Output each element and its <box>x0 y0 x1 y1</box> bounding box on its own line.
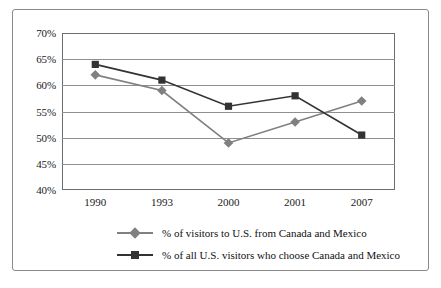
data-point-marker <box>358 131 365 138</box>
legend-marker <box>131 251 139 259</box>
series-layer <box>62 33 395 190</box>
y-axis-tick-label: 70% <box>36 27 56 39</box>
legend-diamond-marker-icon <box>117 226 153 240</box>
legend-marker <box>129 227 140 238</box>
x-axis-tick-label: 2001 <box>284 196 306 208</box>
chart-legend: % of visitors to U.S. from Canada and Me… <box>13 222 428 266</box>
y-axis-tick-label: 40% <box>36 184 56 196</box>
x-axis-tick-label: 2007 <box>351 196 373 208</box>
legend-item[interactable]: % of visitors to U.S. from Canada and Me… <box>13 222 428 244</box>
data-point-marker <box>158 77 165 84</box>
data-point-marker <box>90 70 100 80</box>
data-point-marker <box>292 92 299 99</box>
plot-area <box>62 33 395 190</box>
series-line <box>95 64 361 135</box>
x-axis-tick-label: 2000 <box>218 196 240 208</box>
legend-item-label: % of visitors to U.S. from Canada and Me… <box>162 227 367 239</box>
legend-item-label: % of all U.S. visitors who choose Canada… <box>162 249 400 261</box>
x-axis-tick-labels: 19901993200020012007 <box>62 196 395 212</box>
y-axis-tick-label: 45% <box>36 158 56 170</box>
y-axis-tick-label: 65% <box>36 53 56 65</box>
chart-figure: 40%45%50%55%60%65%70% 199019932000200120… <box>12 9 429 271</box>
data-point-marker <box>357 96 367 106</box>
x-axis-tick-label: 1993 <box>151 196 173 208</box>
y-axis-tick-label: 60% <box>36 79 56 91</box>
y-axis-tick-label: 55% <box>36 106 56 118</box>
data-point-marker <box>92 61 99 68</box>
y-axis-tick-label: 50% <box>36 132 56 144</box>
data-point-marker <box>290 117 300 127</box>
data-point-marker <box>225 103 232 110</box>
y-axis-tick-labels: 40%45%50%55%60%65%70% <box>22 33 56 190</box>
legend-square-marker-icon <box>117 248 153 262</box>
legend-item[interactable]: % of all U.S. visitors who choose Canada… <box>13 244 428 266</box>
x-axis-tick-label: 1990 <box>84 196 106 208</box>
